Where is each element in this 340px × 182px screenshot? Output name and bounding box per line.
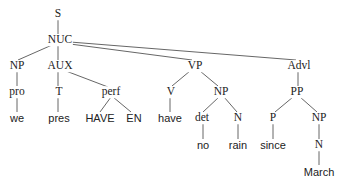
node-vp: VP (187, 60, 204, 72)
node-s: S (54, 8, 62, 20)
leaf-pres: pres (47, 113, 70, 124)
node-pp: PP (290, 86, 305, 98)
leaf-have-upper: HAVE (84, 113, 115, 124)
node-n-march: N (314, 139, 324, 151)
leaf-march: March (303, 167, 336, 178)
node-aux: AUX (47, 60, 74, 72)
node-nuc: NUC (47, 34, 73, 46)
node-det: det (194, 112, 210, 124)
leaf-no: no (196, 140, 210, 151)
node-v: V (166, 86, 176, 98)
node-perf: perf (101, 86, 122, 98)
node-advl: Advl (287, 60, 312, 72)
node-t: T (54, 86, 63, 98)
leaf-we: we (9, 113, 25, 124)
leaf-since: since (259, 140, 287, 151)
leaf-en: EN (125, 113, 142, 124)
leaf-rain: rain (228, 140, 248, 151)
leaf-have: have (157, 113, 183, 124)
node-pro: pro (8, 86, 25, 98)
node-p: P (269, 112, 277, 124)
node-np-subject: NP (9, 60, 26, 72)
node-n: N (233, 112, 243, 124)
node-np-object: NP (213, 86, 230, 98)
syntax-tree: S NUC NP AUX VP Advl pro T perf V NP PP … (0, 0, 340, 182)
node-np-pp: NP (311, 112, 328, 124)
